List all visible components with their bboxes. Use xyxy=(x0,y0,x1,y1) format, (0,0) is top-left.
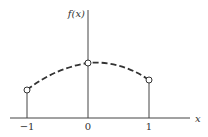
function-diagram: f(x) x −1 0 1 xyxy=(0,0,208,137)
x-tick-label-one: 1 xyxy=(146,121,152,132)
point-circle-minus-one xyxy=(24,87,30,93)
point-circle-zero xyxy=(85,60,91,66)
y-axis-label: f(x) xyxy=(67,8,85,19)
point-circle-one xyxy=(146,77,152,83)
x-tick-label-zero: 0 xyxy=(85,121,91,132)
x-axis-label: x xyxy=(195,113,201,124)
x-tick-label-minus-one: −1 xyxy=(20,121,35,132)
